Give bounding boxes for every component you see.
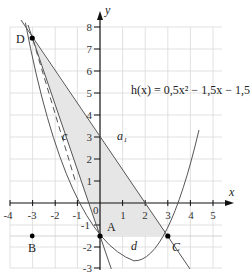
svg-text:-2: -2: [50, 209, 59, 221]
svg-text:3: 3: [165, 209, 171, 221]
svg-text:2: 2: [87, 153, 93, 165]
svg-text:7: 7: [87, 43, 93, 55]
point-C: [165, 233, 170, 238]
svg-text:8: 8: [87, 21, 93, 33]
svg-text:3: 3: [87, 131, 93, 143]
svg-text:-3: -3: [27, 209, 37, 221]
svg-text:2: 2: [142, 209, 148, 221]
label-C: C: [172, 240, 181, 254]
svg-text:5: 5: [210, 209, 216, 221]
origin-label: 0: [93, 204, 99, 216]
y-axis-arrow-icon: [97, 11, 103, 20]
function-label: h(x) = 0,5x² − 1,5x − 1,5: [131, 83, 250, 97]
svg-text:6: 6: [87, 65, 93, 77]
svg-text:5: 5: [87, 87, 93, 99]
x-axis-arrow-icon: [225, 200, 234, 206]
coordinate-diagram: -4 -3 -2 -1 1 2 3 4 5 8 7 6 5 4 3 2 1 -1…: [0, 0, 252, 274]
label-D: D: [16, 32, 25, 46]
label-c: c: [62, 129, 68, 143]
svg-text:-2: -2: [83, 241, 92, 253]
svg-text:1: 1: [87, 175, 93, 187]
svg-text:1: 1: [120, 209, 126, 221]
label-A: A: [107, 220, 116, 234]
point-D: [30, 35, 35, 40]
svg-text:-3: -3: [83, 262, 93, 274]
label-a1: a₁: [117, 129, 127, 143]
y-axis-label: y: [104, 3, 111, 17]
svg-text:-4: -4: [3, 209, 13, 221]
svg-text:4: 4: [87, 109, 93, 121]
label-d: d: [131, 239, 138, 253]
point-B: [30, 234, 35, 239]
label-B: B: [28, 241, 36, 255]
point-A: [97, 233, 102, 238]
svg-text:4: 4: [188, 209, 194, 221]
x-axis-label: x: [228, 185, 235, 199]
svg-text:-1: -1: [81, 219, 90, 231]
